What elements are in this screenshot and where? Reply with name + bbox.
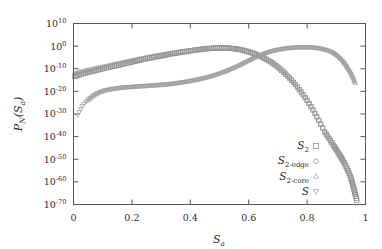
x-tick-label: 0.6 [241, 212, 256, 223]
y-tick-label: 10-20 [44, 85, 67, 97]
x-tick-label: 0.4 [183, 212, 198, 223]
marker-triangle-up [313, 174, 318, 179]
marker-square [313, 143, 318, 148]
y-tick-label: 1010 [46, 17, 66, 29]
plot-legend: S2S2-edgeS2-coreS [278, 139, 319, 197]
x-tick-label: 0 [70, 212, 76, 223]
marker-triangle-down [313, 190, 318, 195]
series-square [73, 46, 359, 203]
y-tick-label: 10-60 [44, 175, 67, 187]
legend-label-0: S2 [297, 139, 309, 154]
scatter-plot: 101010010-1010-2010-3010-4010-5010-6010-… [0, 0, 382, 249]
x-tick-label: 0.8 [300, 212, 315, 223]
marker-circle [314, 159, 319, 164]
y-tick-label: 10-10 [44, 62, 67, 74]
legend-label-2: S2-core [279, 170, 309, 185]
y-axis-label: PN(Sa) [12, 97, 27, 132]
x-axis-ticks: 00.20.40.60.81 [70, 24, 368, 223]
series-triangle-down [76, 46, 356, 118]
y-tick-label: 10-50 [44, 153, 67, 165]
y-tick-label: 10-30 [44, 107, 67, 119]
y-tick-label: 100 [50, 40, 66, 52]
x-tick-label: 1 [362, 212, 368, 223]
legend-label-1: S2-edge [278, 154, 309, 169]
x-tick-label: 0.2 [124, 212, 139, 223]
data-series-group [73, 45, 359, 203]
y-tick-label: 10-40 [44, 130, 67, 142]
x-axis-label: Sa [213, 233, 225, 248]
legend-label-3: S [302, 185, 309, 197]
figure-container: 101010010-1010-2010-3010-4010-5010-6010-… [0, 0, 382, 249]
y-tick-label: 10-70 [44, 198, 67, 210]
